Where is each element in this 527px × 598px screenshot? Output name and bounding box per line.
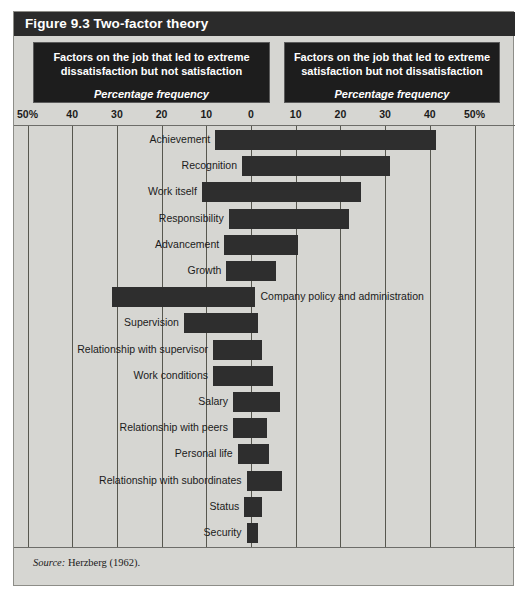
bar-relationship-with-subordinates [247,471,283,491]
bar-row: Advancement [14,232,515,258]
legend-right-line1: Factors on the job that led to extreme [294,51,490,63]
bar-row: Personal life [14,441,515,467]
x-axis-tick-0: 50% [17,108,38,120]
bar-growth [226,261,275,281]
bar-label: Growth [188,264,227,276]
legend-left-subtitle: Percentage frequency [34,88,269,100]
bar-row: Responsibility [14,206,515,232]
bar-security [247,523,258,543]
bar-row: Salary [14,389,515,415]
legend-panel-right-title: Factors on the job that led to extreme s… [285,50,499,78]
bar-recognition [242,156,390,176]
x-axis-tick-5: 0 [248,108,254,120]
bar-label: Company policy and administration [255,290,423,302]
bar-status [244,497,262,517]
bar-label: Relationship with subordinates [99,474,246,486]
x-axis-tick-3: 20 [156,108,168,120]
bar-supervision [184,313,258,333]
bar-label: Relationship with supervisor [77,343,213,355]
legend-right-subtitle: Percentage frequency [285,88,499,100]
x-axis-tick-7: 20 [335,108,347,120]
legend-panel-dissatisfaction: Factors on the job that led to extreme d… [33,42,270,103]
bar-label: Relationship with peers [120,421,234,433]
bar-label: Responsibility [159,212,229,224]
legend-left-line2: dissatisfaction but not satisfaction [61,65,243,77]
x-axis-tick-1: 40 [66,108,78,120]
x-axis-tick-8: 30 [379,108,391,120]
figure-title-bar: Figure 9.3 Two-factor theory [14,12,515,36]
bar-relationship-with-supervisor [213,340,262,360]
bar-row: Recognition [14,153,515,179]
bar-company-policy-and-administration [112,287,255,307]
legend-panel-left-title: Factors on the job that led to extreme d… [34,50,269,78]
source-citation: Herzberg (1962). [68,557,140,568]
bar-label: Advancement [155,238,224,250]
x-axis-tick-2: 30 [111,108,123,120]
bar-label: Achievement [150,133,216,145]
bar-label: Work itself [148,185,202,197]
bar-label: Salary [198,395,233,407]
bar-label: Recognition [182,159,242,171]
legend-right-line2: satisfaction but not dissatisfaction [301,65,483,77]
bar-relationship-with-peers [233,418,267,438]
bar-advancement [224,235,298,255]
source-note: Source: Herzberg (1962). [33,557,140,568]
bar-label: Work conditions [133,369,213,381]
figure-frame: Figure 9.3 Two-factor theory Factors on … [13,11,514,586]
bar-achievement [215,130,436,150]
bar-label: Security [204,526,247,538]
figure-title: Figure 9.3 Two-factor theory [25,16,208,31]
bar-row: Status [14,494,515,520]
bar-row: Achievement [14,127,515,153]
legend-left-line1: Factors on the job that led to extreme [53,51,249,63]
bar-row: Relationship with supervisor [14,337,515,363]
bar-row: Relationship with peers [14,415,515,441]
bar-work-conditions [213,366,273,386]
legend-panel-satisfaction: Factors on the job that led to extreme s… [284,42,500,103]
source-keyword: Source: [33,557,65,568]
bar-row: Company policy and administration [14,284,515,310]
bar-personal-life [238,444,269,464]
bar-row: Work conditions [14,363,515,389]
bar-row: Relationship with subordinates [14,468,515,494]
bar-row: Security [14,520,515,546]
bar-row: Supervision [14,310,515,336]
x-axis-tick-9: 40 [424,108,436,120]
chart-plot-area: AchievementRecognitionWork itselfRespons… [14,125,515,548]
bar-row: Growth [14,258,515,284]
bar-label: Supervision [124,316,184,328]
bar-work-itself [202,182,361,202]
x-axis-tick-labels: 50%4030201001020304050% [14,108,515,125]
x-axis-tick-4: 10 [200,108,212,120]
bar-responsibility [229,209,350,229]
bar-label: Personal life [175,447,238,459]
x-axis-tick-6: 10 [290,108,302,120]
bar-salary [233,392,280,412]
bar-row: Work itself [14,179,515,205]
bar-label: Status [210,500,245,512]
x-axis-tick-10: 50% [464,108,485,120]
